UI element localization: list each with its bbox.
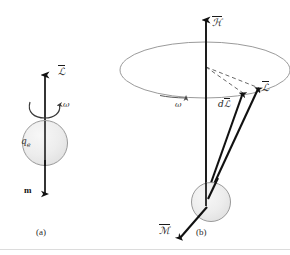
panel-b-caption: (b): [196, 228, 207, 237]
panel-b-field-label: ℋ: [212, 17, 222, 28]
panel-a-caption: (a): [36, 228, 46, 237]
physics-figure: [0, 0, 290, 255]
panel-b-omega-label: ω: [175, 101, 182, 109]
panel-a-group: [23, 75, 68, 194]
panel-b-dashed-radius-to-dL: [206, 67, 243, 93]
panel-b-angular-momentum-vector: [208, 89, 258, 197]
panel-b-magnetic-moment-label: ℳ: [159, 225, 170, 236]
panel-b-dL-label: dℒ: [218, 99, 230, 109]
panel-b-sphere: [192, 183, 231, 222]
panel-b-group: [120, 20, 290, 238]
panel-b-angular-momentum-label: ℒ: [262, 82, 269, 93]
panel-a-magnetic-moment-label: m: [24, 186, 32, 195]
panel-b-dashed-radius-to-L: [206, 67, 259, 88]
panel-a-angular-momentum-label: ℒ: [58, 66, 65, 77]
panel-a-omega-label: ω: [63, 101, 70, 109]
panel-b-dL-vector: [206, 94, 243, 197]
panel-a-charge-label: qe: [21, 137, 31, 148]
